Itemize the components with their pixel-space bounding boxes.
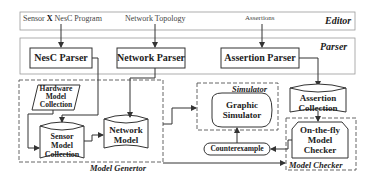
graphic-simulator-label: Graphic Simulator [212, 100, 272, 120]
network-model-label: Network Model [104, 125, 148, 145]
assertions-label: Assertions [245, 14, 275, 22]
editor-section-label: Editor [325, 15, 351, 26]
counterexample-label: Counterexample [204, 144, 270, 154]
model-generator-section-label: Model Genertor [90, 163, 146, 173]
sensor-nesc-program-label: Sensor X NesC Program [23, 14, 102, 23]
assertion-collection-label: Assertion Collection [290, 93, 346, 113]
sensor-model-collection-label: Sensor Model Collection [40, 132, 84, 159]
assertion-parser-label: Assertion Parser [221, 52, 299, 63]
parser-section-label: Parser [320, 41, 347, 52]
model-checker-section-label: Model Checker [289, 160, 343, 170]
network-parser-label: Network Parser [117, 52, 185, 63]
nesc-parser-label: NesC Parser [30, 52, 92, 63]
simulator-section-label: Simulator [232, 84, 267, 94]
on-the-fly-checker-label: On-the-fly Model Checker [292, 125, 348, 155]
hardware-model-collection-label: Hardware Model Collection [34, 85, 78, 109]
network-topology-label: Network Topology [125, 14, 185, 23]
